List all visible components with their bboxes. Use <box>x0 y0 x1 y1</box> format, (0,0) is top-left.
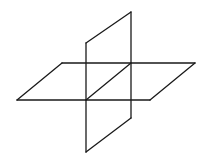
vertical-plane-top-edge <box>86 12 131 43</box>
horizontal-plane-left-edge <box>17 63 62 100</box>
intersecting-planes-diagram <box>0 0 203 161</box>
horizontal-plane <box>17 63 195 100</box>
vertical-plane-bottom-edge <box>86 118 131 152</box>
horizontal-plane-right-edge <box>150 63 195 100</box>
intersection-line <box>86 63 131 100</box>
